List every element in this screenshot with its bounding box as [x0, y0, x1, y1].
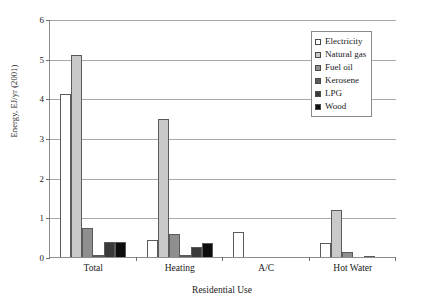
bar [60, 94, 71, 257]
x-axis-tick [136, 257, 137, 261]
y-axis-tick-label: 0 [40, 254, 45, 263]
bar [115, 242, 126, 257]
bar-group: Heating [137, 19, 224, 257]
y-axis-tick [46, 258, 50, 259]
bar [104, 242, 115, 257]
bar [331, 210, 342, 257]
legend-item: Electricity [315, 35, 366, 48]
bar [233, 232, 244, 257]
y-axis-title: Energy, EJ/yr (2001) [9, 51, 19, 151]
bar [342, 252, 353, 257]
legend-item-label: Kerosene [325, 76, 359, 85]
legend-swatch-icon [315, 52, 321, 58]
y-axis-tick-label: 6 [40, 16, 45, 25]
legend-item-label: Fuel oil [325, 63, 353, 72]
x-axis-tick-label: Heating [165, 263, 195, 273]
legend-item-label: Electricity [325, 37, 362, 46]
bar [320, 243, 331, 257]
x-axis-tick-label: A/C [258, 263, 274, 273]
y-axis-tick-label: 4 [40, 95, 45, 104]
bar [364, 256, 375, 257]
x-axis-tick-label: Hot Water [333, 263, 372, 273]
y-axis-tick-label: 1 [40, 214, 45, 223]
bar [93, 255, 104, 257]
bar [71, 55, 82, 257]
bar-group: A/C [223, 19, 310, 257]
bar-group: Total [50, 19, 137, 257]
legend-swatch-icon [315, 104, 321, 110]
legend-swatch-icon [315, 65, 321, 71]
legend-swatch-icon [315, 91, 321, 97]
legend-item-label: Natural gas [325, 50, 366, 59]
legend-item: Wood [315, 100, 366, 113]
legend-swatch-icon [315, 78, 321, 84]
chart-legend: ElectricityNatural gasFuel oilKeroseneLP… [311, 31, 372, 117]
legend-swatch-icon [315, 39, 321, 45]
x-axis-title: Residential Use [49, 285, 395, 295]
x-axis-tick [309, 257, 310, 261]
legend-item-label: LPG [325, 89, 342, 98]
bar [191, 247, 202, 257]
bar-chart: Energy, EJ/yr (2001) 0123456 TotalHeatin… [0, 0, 424, 308]
x-axis-tick [222, 257, 223, 261]
y-axis-tick-label: 5 [40, 55, 45, 64]
bar [169, 234, 180, 257]
x-axis-tick-label: Total [84, 263, 103, 273]
bar [202, 243, 213, 257]
legend-item: Fuel oil [315, 61, 366, 74]
y-axis-tick-label: 3 [40, 135, 45, 144]
bar [147, 240, 158, 257]
bar [158, 119, 169, 257]
legend-item: LPG [315, 87, 366, 100]
legend-item: Natural gas [315, 48, 366, 61]
legend-item-label: Wood [325, 102, 346, 111]
y-axis-tick-label: 2 [40, 174, 45, 183]
legend-item: Kerosene [315, 74, 366, 87]
x-axis-tick [395, 257, 396, 261]
bar [180, 255, 191, 257]
bar [82, 228, 93, 257]
